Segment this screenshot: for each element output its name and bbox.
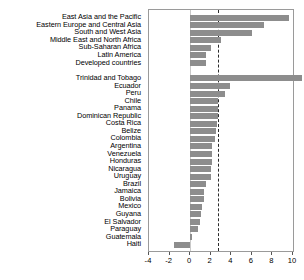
bar (190, 15, 289, 21)
plot-area (148, 9, 294, 252)
bar (190, 83, 230, 89)
bar (190, 211, 201, 217)
bar (190, 98, 218, 104)
category-label: Haiti (127, 240, 141, 247)
bar (190, 121, 217, 127)
bar (190, 45, 211, 51)
x-axis-tick (169, 252, 170, 255)
x-axis-tick (292, 252, 293, 255)
bar (190, 113, 218, 119)
x-axis-tick-label: 8 (269, 256, 273, 265)
bar (190, 91, 225, 97)
x-axis-tick-label: 10 (288, 256, 296, 265)
x-axis-tick (210, 252, 211, 255)
bar (190, 151, 212, 157)
x-axis-tick (230, 252, 231, 255)
bar (190, 204, 202, 210)
bar (190, 219, 200, 225)
x-axis-tick-label: 6 (249, 256, 253, 265)
bar (190, 22, 264, 28)
bar (174, 242, 190, 248)
category-label-column: East Asia and the PacificEastern Europe … (0, 0, 144, 280)
bar (190, 128, 216, 134)
x-axis-tick-label: -2 (165, 256, 172, 265)
bar-series (149, 10, 293, 251)
x-axis-tick-label: 2 (208, 256, 212, 265)
bar (190, 136, 215, 142)
x-axis-tick (189, 252, 190, 255)
bar (190, 196, 203, 202)
bar (190, 30, 252, 36)
bar (190, 159, 212, 165)
bar (190, 181, 205, 187)
bar (190, 189, 203, 195)
bar (190, 234, 192, 240)
bar (190, 60, 205, 66)
bar (190, 143, 212, 149)
x-axis-tick-label: 0 (187, 256, 191, 265)
bar (190, 37, 221, 43)
bar-chart: East Asia and the PacificEastern Europe … (0, 0, 304, 280)
x-axis-tick (148, 252, 149, 255)
category-label: Developed countries (75, 59, 141, 66)
bar (190, 166, 211, 172)
x-axis-tick-label: -4 (145, 256, 152, 265)
bar (190, 226, 198, 232)
x-axis-tick (251, 252, 252, 255)
x-axis: -4-20246810 (148, 252, 294, 278)
bar (190, 106, 218, 112)
x-axis-tick-label: 4 (228, 256, 232, 265)
bar (190, 174, 211, 180)
bar (190, 52, 205, 58)
x-axis-tick (271, 252, 272, 255)
bar (190, 75, 302, 81)
